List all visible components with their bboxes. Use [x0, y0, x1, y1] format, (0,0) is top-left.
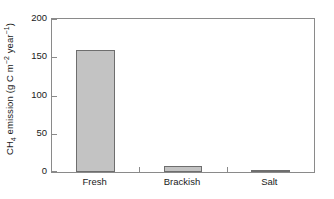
- y-axis-title-subscript: 4: [10, 137, 17, 141]
- y-axis-title-superscript-2: −1: [3, 26, 10, 34]
- y-axis-tick-labels: 050100150200: [20, 0, 47, 199]
- y-axis-tick-label: 50: [21, 128, 47, 138]
- x-axis-tick-label-salt: Salt: [261, 176, 277, 188]
- y-axis-tick-mark: [52, 96, 57, 97]
- y-axis-tick-label: 100: [21, 90, 47, 100]
- bar-salt: [251, 170, 289, 172]
- y-axis-tick-label: 150: [21, 51, 47, 61]
- y-axis-tick-mark: [52, 171, 57, 172]
- bar-chart-figure: CH4 emission (g C m−2 year−1) 0501001502…: [0, 0, 334, 199]
- x-axis-tick-mark: [139, 167, 140, 172]
- bar-brackish: [164, 166, 202, 172]
- y-axis-tick-mark: [52, 57, 57, 58]
- y-axis-title-container: CH4 emission (g C m−2 year−1): [0, 0, 20, 199]
- y-axis-tick-label: 200: [21, 13, 47, 23]
- y-axis-title-superscript-1: −2: [3, 56, 10, 64]
- y-axis-title-mid: emission (g C m: [4, 64, 15, 137]
- x-axis-tick-label-fresh: Fresh: [83, 176, 107, 188]
- y-axis-tick-label: 0: [21, 166, 47, 176]
- x-axis-tick-mark: [227, 167, 228, 172]
- y-axis-title-suffix: ): [4, 23, 15, 26]
- y-axis-tick-mark: [52, 134, 57, 135]
- y-axis-tick-mark: [52, 19, 57, 20]
- y-axis-title: CH4 emission (g C m−2 year−1): [3, 0, 17, 179]
- bar-fresh: [76, 50, 114, 172]
- plot-area: [51, 18, 315, 173]
- y-axis-title-prefix: CH: [4, 141, 15, 155]
- x-axis-tick-label-brackish: Brackish: [164, 176, 200, 188]
- x-axis-tick-labels: FreshBrackishSalt: [51, 176, 315, 192]
- y-axis-title-mid-2: year: [4, 34, 15, 56]
